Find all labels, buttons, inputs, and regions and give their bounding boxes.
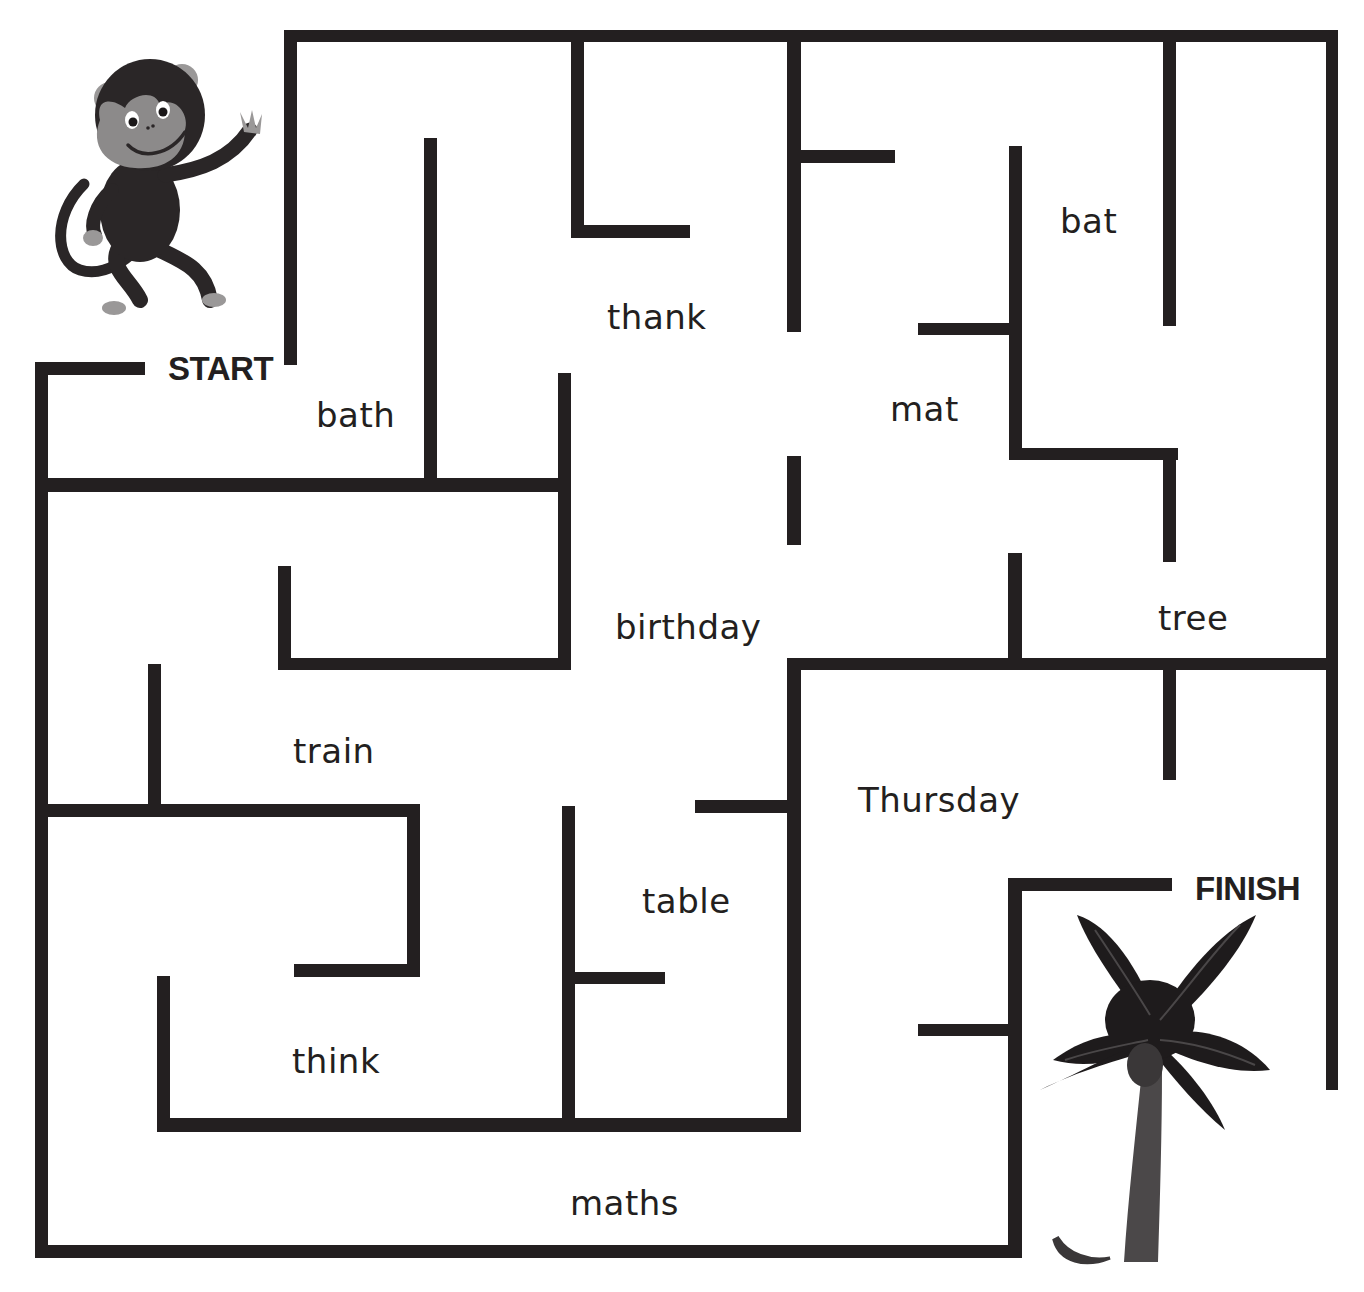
maze-wall (918, 323, 1022, 335)
maze-wall (1009, 448, 1178, 460)
finish-label: FINISH (1195, 872, 1300, 905)
maze-word-train[interactable]: train (293, 734, 375, 768)
maze-wall (35, 804, 420, 817)
maze-wall (570, 972, 665, 984)
maze-wall (695, 800, 794, 813)
maze-word-thank[interactable]: thank (607, 300, 706, 334)
maze-word-think[interactable]: think (292, 1044, 380, 1078)
maze-wall (278, 566, 291, 670)
maze-wall (284, 30, 1338, 42)
maze-wall (1163, 40, 1176, 326)
maze-wall (35, 478, 570, 492)
maze-wall (787, 658, 1338, 670)
maze-wall (35, 362, 145, 375)
maze-wall (787, 658, 801, 1132)
maze-wall (1008, 553, 1022, 667)
maze-wall (562, 806, 575, 1125)
monkey-icon (61, 59, 262, 315)
maze-wall (424, 138, 437, 485)
maze-wall (571, 225, 690, 238)
maze-word-table[interactable]: table (642, 884, 731, 918)
maze-wall (1008, 878, 1172, 891)
maze-wall (35, 1245, 1022, 1258)
maze-wall (1326, 30, 1338, 1090)
banana-icon (1054, 1238, 1110, 1263)
maze-wall (918, 1024, 1022, 1036)
maze-wall (157, 976, 170, 1131)
maze-wall (787, 150, 895, 163)
maze-wall (787, 456, 801, 545)
palm-tree-icon (1040, 915, 1270, 1263)
maze-word-bat[interactable]: bat (1060, 204, 1117, 238)
maze-wall (278, 658, 571, 670)
maze-word-thursday[interactable]: Thursday (858, 783, 1020, 817)
start-label: START (168, 352, 273, 385)
maze-wall (571, 40, 584, 238)
maze-wall (1009, 146, 1022, 460)
maze-word-birthday[interactable]: birthday (615, 610, 761, 644)
maze-word-mat[interactable]: mat (890, 392, 959, 426)
maze-wall (1163, 665, 1176, 780)
maze-word-bath[interactable]: bath (316, 398, 395, 432)
maze-wall (407, 804, 420, 977)
maze-wall (1008, 878, 1022, 1258)
maze-wall (1163, 448, 1176, 562)
maze-wall (148, 664, 161, 808)
maze-wall (787, 40, 801, 332)
maze-wall (284, 30, 297, 365)
maze-word-tree[interactable]: tree (1158, 601, 1228, 635)
maze-wall (294, 964, 420, 977)
maze-word-maths[interactable]: maths (570, 1186, 679, 1220)
maze-wall (558, 373, 571, 670)
maze-wall (157, 1118, 794, 1132)
